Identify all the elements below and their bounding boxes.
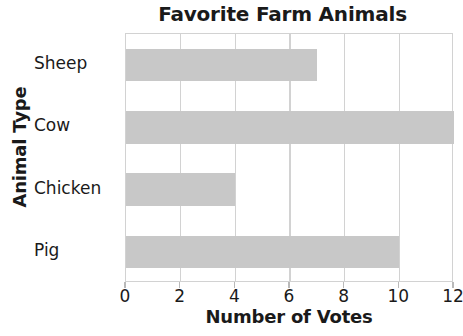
y-axis-tick-label: Pig bbox=[34, 242, 124, 259]
x-axis-tick-label: 10 bbox=[378, 286, 418, 306]
y-axis-tick-label: Sheep bbox=[34, 55, 124, 72]
x-axis-tick-label: 4 bbox=[214, 286, 254, 306]
x-axis-title: Number of Votes bbox=[125, 306, 453, 327]
x-axis-tick-label: 8 bbox=[324, 286, 364, 306]
y-axis-tick-label: Cow bbox=[34, 117, 124, 134]
bar bbox=[126, 236, 399, 268]
chart-title: Favorite Farm Animals bbox=[110, 2, 455, 26]
bar-chart: Favorite Farm Animals Animal Type SheepC… bbox=[0, 0, 463, 336]
y-axis-tick-labels: SheepCowChickenPig bbox=[34, 33, 124, 282]
plot-area bbox=[125, 33, 453, 282]
bar bbox=[126, 111, 454, 143]
y-axis-tick-label: Chicken bbox=[34, 180, 124, 197]
x-axis-tick-label: 2 bbox=[160, 286, 200, 306]
y-axis-title: Animal Type bbox=[9, 98, 30, 208]
x-axis-tick-label: 0 bbox=[105, 286, 145, 306]
bar bbox=[126, 49, 317, 81]
bar bbox=[126, 173, 235, 205]
x-axis-tick-label: 6 bbox=[269, 286, 309, 306]
x-axis-tick-label: 12 bbox=[433, 286, 463, 306]
